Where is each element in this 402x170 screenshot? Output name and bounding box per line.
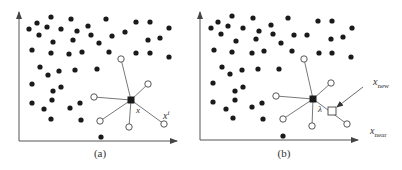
sample-point: [280, 133, 285, 138]
sample-point: [223, 106, 228, 111]
caption-b: (b): [278, 147, 291, 160]
sample-point: [233, 38, 238, 43]
sample-point: [232, 88, 237, 93]
sample-point: [340, 34, 345, 39]
sample-point: [316, 50, 321, 55]
sample-point: [44, 24, 49, 29]
sample-point: [250, 15, 255, 20]
sample-point: [96, 40, 101, 45]
sample-point: [253, 36, 258, 41]
neighbor-node: [118, 56, 124, 62]
sample-point: [215, 19, 220, 24]
pointer-arrow: [337, 87, 363, 107]
sample-point: [348, 54, 353, 59]
sample-point: [98, 134, 103, 139]
sample-point: [210, 80, 215, 85]
neighbor-node: [145, 81, 151, 87]
sample-point: [270, 31, 275, 36]
edge: [121, 59, 131, 100]
sample-point: [210, 99, 215, 104]
node-label: xi: [162, 109, 169, 121]
sample-point: [147, 50, 152, 55]
sample-point: [78, 117, 83, 122]
edge: [304, 59, 313, 99]
sample-point: [291, 32, 296, 37]
edge: [94, 97, 131, 100]
sample-point: [122, 29, 127, 34]
sample-point: [225, 23, 230, 28]
sample-point: [230, 115, 235, 120]
edge: [276, 96, 313, 99]
sample-point: [147, 19, 152, 24]
sample-point: [68, 16, 73, 21]
sample-point: [261, 48, 266, 53]
neighbor-node: [344, 121, 350, 127]
sample-point: [249, 104, 254, 109]
sample-point: [289, 48, 294, 53]
sample-point: [41, 106, 46, 111]
sample-point: [278, 40, 283, 45]
sample-point: [259, 100, 264, 105]
sample-point: [85, 23, 90, 28]
sample-point: [328, 36, 333, 41]
sample-point: [276, 66, 281, 71]
sample-point: [58, 26, 63, 31]
edge: [283, 99, 313, 119]
sample-point: [36, 32, 41, 37]
edge: [312, 99, 313, 126]
sample-point: [218, 31, 223, 36]
sample-point: [94, 66, 99, 71]
sample-point: [232, 97, 237, 102]
sample-point: [239, 67, 244, 72]
edge: [129, 100, 131, 127]
sample-point: [29, 81, 34, 86]
neighbor-node: [309, 123, 315, 129]
edge: [100, 100, 131, 121]
sample-point: [166, 54, 171, 59]
sample-point: [249, 50, 254, 55]
sample-point: [29, 100, 34, 105]
sample-point: [103, 16, 108, 21]
sample-point: [77, 100, 82, 105]
center-label: λ: [317, 104, 322, 114]
sample-point: [45, 72, 50, 77]
sample-point: [88, 32, 93, 37]
sample-point: [211, 47, 216, 52]
sample-point: [240, 25, 245, 30]
sample-point: [79, 49, 84, 54]
query-node: [128, 97, 135, 104]
sample-point: [66, 51, 71, 56]
neighbor-node: [280, 116, 286, 122]
sample-point: [72, 67, 77, 72]
sample-point: [133, 50, 138, 55]
sample-point: [106, 49, 111, 54]
neighbor-node: [97, 118, 103, 124]
sample-point: [227, 71, 232, 76]
sample-point: [74, 28, 79, 33]
neighbor-node: [273, 93, 279, 99]
sample-point: [48, 50, 53, 55]
sample-point: [349, 25, 354, 30]
sample-point: [109, 33, 114, 38]
sample-point: [315, 18, 320, 23]
neighbor-node: [91, 94, 97, 100]
panel-a: xxi: [19, 12, 177, 141]
sample-point: [26, 26, 31, 31]
sample-point: [58, 84, 63, 89]
sample-point: [256, 28, 261, 33]
sample-point: [133, 19, 138, 24]
sample-point: [34, 20, 39, 25]
sample-point: [285, 15, 290, 20]
panel-b: λxnewxnear: [200, 12, 390, 140]
sample-point: [49, 97, 54, 102]
sample-point: [48, 14, 53, 19]
sample-point: [229, 13, 234, 18]
sample-point: [56, 68, 61, 73]
sample-point: [50, 88, 55, 93]
sample-point: [50, 39, 55, 44]
new-node: [328, 107, 336, 115]
sample-point: [157, 35, 162, 40]
node-label: xnew: [372, 76, 390, 90]
sample-point: [29, 47, 34, 52]
sample-point: [240, 84, 245, 89]
